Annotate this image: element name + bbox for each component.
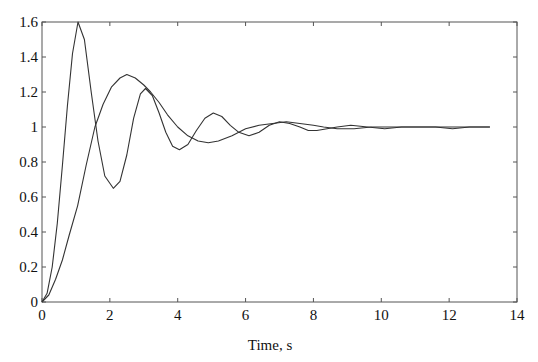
- y-tick-label: 1.2: [19, 84, 38, 100]
- y-tick-label: 0.2: [19, 259, 38, 275]
- y-tick-label: 0: [31, 294, 39, 310]
- x-tick-label: 0: [38, 307, 46, 323]
- x-tick-label: 12: [442, 307, 457, 323]
- x-axis-label: Time, s: [248, 337, 293, 353]
- y-tick-label: 0.6: [19, 189, 38, 205]
- y-tick-label: 0.4: [19, 224, 38, 240]
- y-tick-label: 0.8: [19, 154, 38, 170]
- data-series: [42, 22, 490, 302]
- x-tick-label: 10: [374, 307, 389, 323]
- series-line-1: [42, 22, 490, 302]
- x-axis-ticks: 02468101214: [38, 22, 525, 323]
- x-tick-label: 2: [106, 307, 114, 323]
- plot-area-frame: [42, 22, 517, 302]
- x-tick-label: 14: [510, 307, 526, 323]
- y-tick-label: 1: [31, 119, 39, 135]
- x-tick-label: 4: [174, 307, 182, 323]
- y-axis-ticks: 00.20.40.60.811.21.41.6: [19, 14, 517, 310]
- step-response-chart: 02468101214 00.20.40.60.811.21.41.6 Time…: [0, 0, 538, 362]
- x-tick-label: 8: [310, 307, 318, 323]
- x-tick-label: 6: [242, 307, 250, 323]
- y-tick-label: 1.4: [19, 49, 38, 65]
- series-line-2: [42, 75, 490, 303]
- y-tick-label: 1.6: [19, 14, 38, 30]
